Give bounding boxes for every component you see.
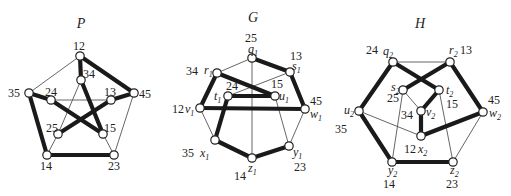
vertex-name-label: u2 — [344, 103, 354, 119]
graph-title: G — [248, 10, 258, 25]
vertex-x2 — [417, 132, 425, 140]
edge-thick — [252, 146, 289, 158]
vertex-number-label: 12 — [404, 142, 416, 156]
vertex-s2 — [399, 86, 407, 94]
vertex-name-label: z1 — [247, 161, 257, 177]
graph-title: H — [414, 16, 426, 31]
vertex-name-label: s2 — [391, 80, 400, 96]
graph-P: P12343524134525151423 — [8, 16, 151, 173]
edge-thick — [252, 58, 290, 72]
edge-thick — [393, 62, 439, 90]
vertex-u2 — [355, 107, 363, 115]
vertex-12 — [76, 52, 84, 60]
vertex-number-label: 23 — [294, 160, 306, 174]
vertex-name-label: v2 — [426, 105, 435, 121]
vertex-w2 — [479, 108, 487, 116]
vertex-35 — [25, 89, 33, 97]
vertex-number-label: 45 — [139, 87, 151, 101]
vertex-w1 — [301, 105, 309, 113]
vertex-number-label: 34 — [186, 64, 198, 78]
edge-thin — [200, 108, 215, 140]
vertex-number-label: 14 — [383, 177, 395, 191]
edge-thick — [403, 62, 450, 90]
vertex-number-label: 12 — [73, 39, 85, 53]
vertex-number-label: 45 — [488, 93, 500, 107]
vertex-name-label: r1 — [204, 63, 213, 79]
vertex-name-label: q2 — [383, 44, 393, 60]
vertex-number-label: 24 — [366, 43, 378, 57]
vertex-name-label: x2 — [417, 142, 427, 158]
vertex-name-label: z2 — [449, 163, 459, 179]
vertex-number-label: 34 — [401, 108, 413, 122]
vertex-name-label: t1 — [214, 89, 221, 105]
vertex-name-label: w2 — [489, 106, 501, 122]
vertex-number-label: 13 — [104, 85, 116, 99]
vertex-name-label: r2 — [449, 43, 458, 59]
diagram-canvas: P12343524134525151423G25q134r113s124t115… — [0, 0, 511, 196]
graph-G: G25q134r113s124t115u112v145w135x123y114z… — [172, 10, 322, 183]
vertex-14 — [43, 151, 51, 159]
edge-thick — [200, 108, 305, 109]
vertex-45 — [130, 89, 138, 97]
vertex-name-label: y1 — [292, 145, 302, 161]
vertex-u1 — [271, 92, 279, 100]
vertex-number-label: 12 — [172, 102, 184, 116]
vertex-r2 — [446, 58, 454, 66]
vertex-v2 — [417, 107, 425, 115]
vertex-number-label: 23 — [446, 177, 458, 191]
vertex-number-label: 34 — [83, 67, 95, 81]
vertex-number-label: 15 — [104, 121, 116, 135]
vertex-t1 — [224, 92, 232, 100]
vertex-y1 — [285, 142, 293, 150]
vertex-x1 — [211, 136, 219, 144]
vertex-r1 — [213, 69, 221, 77]
vertex-name-label: w1 — [310, 107, 322, 123]
edge-thick — [215, 140, 252, 158]
vertex-number-label: 25 — [46, 121, 58, 135]
vertex-number-label: 35 — [182, 146, 194, 160]
vertex-number-label: 24 — [226, 79, 238, 93]
vertex-t2 — [435, 86, 443, 94]
vertex-v1 — [196, 104, 204, 112]
graph-title: P — [76, 16, 86, 31]
vertex-number-label: 14 — [40, 159, 52, 173]
vertex-number-label: 13 — [460, 43, 472, 57]
vertex-number-label: 14 — [234, 169, 246, 183]
edge-thick — [359, 111, 392, 162]
graph-H: H24q213r225s215t235u234v245w212x214y223z… — [335, 16, 501, 191]
vertex-name-label: v1 — [185, 102, 194, 118]
vertex-number-label: 35 — [8, 86, 20, 100]
vertex-number-label: 15 — [446, 97, 458, 111]
vertex-name-label: y2 — [387, 163, 397, 179]
vertex-name-label: u1 — [279, 89, 289, 105]
vertex-name-label: t2 — [446, 83, 453, 99]
edge-thin — [217, 58, 252, 73]
vertex-number-label: 45 — [310, 94, 322, 108]
vertex-number-label: 35 — [335, 122, 347, 136]
vertex-number-label: 23 — [108, 159, 120, 173]
vertex-name-label: x1 — [199, 146, 209, 162]
edge-thin — [114, 93, 134, 155]
vertex-23 — [110, 151, 118, 159]
edge-thick — [29, 93, 47, 155]
vertex-number-label: 24 — [45, 85, 57, 99]
edge-thick — [290, 72, 305, 109]
edge-thin — [289, 109, 305, 146]
